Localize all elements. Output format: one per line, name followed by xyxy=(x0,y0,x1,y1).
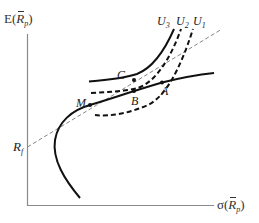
y-axis-label: E(Rp) xyxy=(4,12,33,28)
point-c xyxy=(132,78,136,82)
indifference-curve-u1 xyxy=(95,29,193,116)
label-u3: U3 xyxy=(157,15,170,30)
point-m xyxy=(88,103,92,107)
risk-free-label: Rf xyxy=(13,140,23,156)
label-u1-var: U xyxy=(193,14,202,28)
label-u2-var: U xyxy=(176,14,185,28)
risk-free-label-sub: f xyxy=(21,147,23,156)
label-u3-sub: 3 xyxy=(166,21,170,30)
y-axis-label-var: R xyxy=(16,11,24,26)
label-b: B xyxy=(131,95,138,107)
y-axis-label-suffix: ) xyxy=(28,11,32,26)
diagram-canvas xyxy=(0,0,259,223)
label-u3-var: U xyxy=(157,14,166,28)
x-axis-label-var: R xyxy=(228,197,236,212)
y-axis-label-prefix: E( xyxy=(4,11,16,26)
point-b xyxy=(132,89,136,93)
portfolio-diagram: E(Rp) σ(Rp) Rf M B C A U3 U2 U1 xyxy=(0,0,259,223)
x-axis-label-suffix: ) xyxy=(240,197,244,212)
capital-market-line xyxy=(28,29,223,147)
x-axis-label: σ(Rp) xyxy=(217,198,245,214)
label-u1: U1 xyxy=(193,15,206,30)
label-a: A xyxy=(161,85,168,97)
label-u2: U2 xyxy=(176,15,189,30)
label-m: M xyxy=(76,97,86,109)
label-u2-sub: 2 xyxy=(185,21,189,30)
label-u1-sub: 1 xyxy=(202,21,206,30)
label-c: C xyxy=(117,69,125,81)
risk-free-label-var: R xyxy=(13,139,21,154)
indifference-curve-u3 xyxy=(89,29,174,82)
x-axis-label-prefix: σ( xyxy=(217,197,228,212)
